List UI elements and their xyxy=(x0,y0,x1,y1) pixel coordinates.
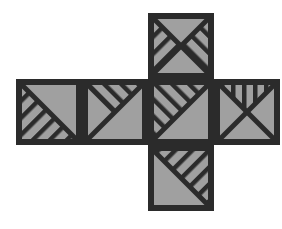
face-center xyxy=(148,79,214,145)
face-top xyxy=(148,13,214,79)
face-left xyxy=(16,79,82,145)
face-bottom xyxy=(148,145,214,211)
figure-root xyxy=(0,0,282,229)
face-second xyxy=(82,79,148,145)
cube-net-diagram xyxy=(0,0,282,229)
face-right xyxy=(214,79,280,145)
